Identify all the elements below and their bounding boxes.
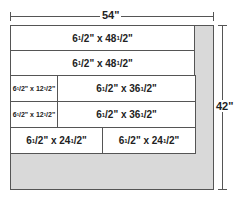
piece-8: 61/2" x 241/2" (102, 127, 196, 154)
piece-7: 61/2" x 241/2" (10, 127, 103, 154)
height-tick-bottom (218, 189, 227, 190)
piece-1: 61/2" x 481/2" (10, 25, 195, 51)
piece-5: 61/2" x 121/2" (10, 101, 58, 128)
height-tick-top (218, 25, 227, 26)
piece-4: 61/2" x 361/2" (57, 75, 196, 102)
piece-2: 61/2" x 481/2" (10, 50, 195, 76)
width-label: 54" (100, 9, 121, 21)
width-tick-right (213, 12, 214, 21)
piece-6: 61/2" x 361/2" (57, 101, 196, 128)
height-label: 42" (214, 100, 235, 112)
width-tick-left (10, 12, 11, 21)
piece-3: 61/2" x 121/2" (10, 75, 58, 102)
